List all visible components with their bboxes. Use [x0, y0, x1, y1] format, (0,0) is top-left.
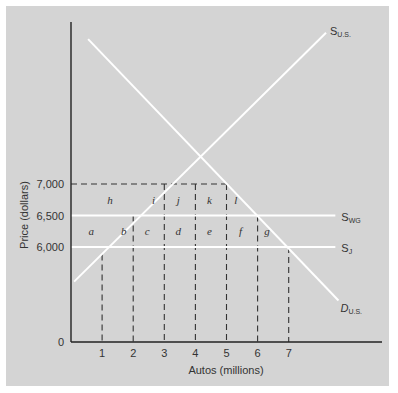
curve-label-main: D [340, 302, 348, 314]
x-tick-label: 6 [255, 347, 261, 359]
region-label-c: c [145, 225, 150, 237]
x-tick-label: 5 [223, 347, 229, 359]
y-axis-label: Price (dollars) [18, 181, 30, 249]
x-tick-label: 1 [99, 347, 105, 359]
region-label-i: i [152, 194, 155, 206]
curve-label-subscript: U.S. [337, 31, 351, 38]
curve-label-s-wg: SWG [341, 211, 360, 224]
region-label-e: e [207, 225, 212, 237]
region-label-l: l [234, 194, 237, 206]
curve-label-main: S [341, 242, 348, 254]
chart: Autos (millions) Price (dollars) SU.S.DU… [0, 0, 398, 393]
region-label-b: b [121, 225, 127, 237]
region-label-k: k [207, 194, 213, 206]
curve-label-s-u-s: SU.S. [330, 25, 351, 38]
x-tick-label: 2 [130, 347, 136, 359]
curve-label-subscript: U.S. [348, 308, 362, 315]
curve-label-main: S [330, 25, 337, 37]
region-label-h: h [107, 194, 113, 206]
curve-label-subscript: WG [349, 217, 361, 224]
region-label-d: d [176, 225, 182, 237]
curve-label-d-u-s: DU.S. [340, 302, 362, 315]
region-label-g: g [264, 225, 270, 237]
curve-d-u-s [88, 39, 338, 300]
curve-label-s-j: SJ [341, 242, 352, 255]
x-tick-label: 7 [286, 347, 292, 359]
y-tick-label: 0 [58, 336, 64, 348]
region-label-a: a [88, 225, 94, 237]
x-tick-label: 4 [192, 347, 198, 359]
region-label-f: f [239, 225, 244, 237]
y-tick-label: 6,000 [36, 241, 64, 253]
region-label-j: j [175, 194, 180, 206]
curve-label-subscript: J [349, 248, 353, 255]
x-tick-label: 3 [161, 347, 167, 359]
x-axis-label: Autos (millions) [188, 364, 263, 376]
y-tick-label: 6,500 [36, 210, 64, 222]
y-tick-label: 7,000 [36, 178, 64, 190]
curve-label-main: S [341, 211, 348, 223]
